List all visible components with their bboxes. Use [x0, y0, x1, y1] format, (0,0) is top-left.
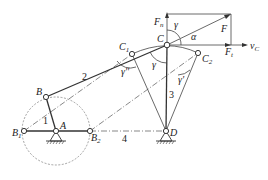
joint-C	[164, 42, 170, 48]
label-link-3: 3	[169, 89, 174, 100]
label-C1: C1	[119, 41, 129, 54]
label-Fn: Fn	[153, 16, 164, 29]
four-bar-linkage-diagram: B A B1 B2 C C1 C2 D 1 2 3 4 Fn F Ft vC γ…	[0, 0, 268, 180]
angle-alpha-arc	[180, 39, 181, 45]
label-A: A	[59, 120, 67, 131]
label-Ft: Ft	[224, 46, 234, 59]
label-F: F	[220, 23, 228, 34]
joint-A	[53, 128, 58, 133]
label-B1: B1	[12, 127, 22, 140]
label-gamma: γ	[152, 59, 157, 70]
label-gamma-p: γ'	[178, 74, 185, 85]
label-link-2: 2	[82, 71, 87, 82]
joint-B	[43, 94, 48, 99]
link-3-rocker	[166, 45, 167, 131]
joint-C1	[129, 51, 134, 56]
label-link-4: 4	[122, 133, 127, 144]
label-B: B	[36, 86, 42, 97]
label-vC: vC	[250, 40, 259, 53]
arrowhead-icon	[165, 12, 169, 18]
link-2-coupler	[46, 45, 167, 97]
joint-B1	[21, 128, 26, 133]
label-gamma-pp: γ''	[121, 66, 130, 77]
label-B2: B2	[91, 132, 101, 145]
diagram-canvas: B A B1 B2 C C1 C2 D 1 2 3 4 Fn F Ft vC γ…	[0, 0, 268, 180]
arrowhead-icon	[242, 43, 248, 47]
joint-C2	[195, 50, 200, 55]
joint-D	[163, 128, 168, 133]
label-gamma-top: γ	[174, 19, 179, 30]
label-link-1: 1	[43, 115, 48, 126]
label-alpha: α	[191, 31, 197, 42]
rocker-position-DC1	[132, 54, 166, 131]
arrowhead-icon	[224, 14, 231, 19]
label-C: C	[157, 33, 164, 44]
label-D: D	[169, 127, 178, 138]
angle-gamma-top-arc	[167, 30, 180, 38]
label-C2: C2	[202, 53, 213, 66]
